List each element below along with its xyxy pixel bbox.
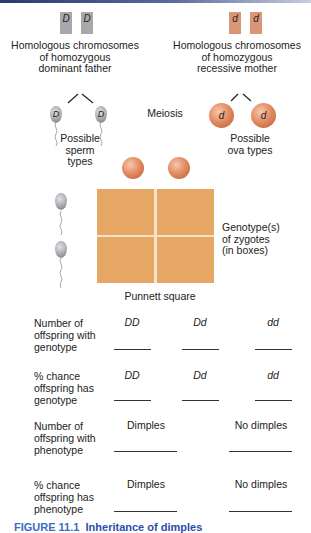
label-line: phenotype <box>34 444 96 456</box>
allele-label: d <box>219 110 225 121</box>
ovum-icon: d <box>209 103 234 128</box>
answer-blank-dimples-count[interactable] <box>114 451 177 452</box>
punnett-square <box>97 189 214 283</box>
punnett-cell <box>157 237 214 283</box>
label-line: phenotype <box>34 503 94 515</box>
genotype-percent-row-label: % chance offspring has genotype <box>34 370 94 406</box>
phenotype-column-dimples: Dimples <box>114 419 178 431</box>
label-line: genotype <box>34 341 96 353</box>
label-line: offspring has <box>34 382 94 394</box>
genotype-column-DD: DD <box>114 316 150 328</box>
answer-blank-dd-count[interactable] <box>255 349 292 350</box>
label-line: ova types <box>215 145 285 157</box>
genotype-column-DD: DD <box>114 369 150 381</box>
genotype-column-dd: dd <box>255 369 291 381</box>
figure-title: Inheritance of dimples <box>86 521 203 533</box>
answer-blank-dimples-percent[interactable] <box>114 511 177 512</box>
answer-blank-DD-percent[interactable] <box>114 400 151 401</box>
label-line: Possible <box>55 133 105 145</box>
allele-label: D <box>53 109 60 119</box>
label-line: Genotype(s) <box>222 222 280 234</box>
answer-blank-DD-count[interactable] <box>114 349 151 350</box>
genotype-column-Dd: Dd <box>182 369 218 381</box>
ova-types-label: Possible ova types <box>215 133 285 156</box>
punnett-square-title: Punnett square <box>115 291 205 303</box>
allele-label: D <box>98 109 105 119</box>
genotype-count-row-label: Number of offspring with genotype <box>34 317 96 353</box>
answer-blank-no-dimples-count[interactable] <box>229 451 292 452</box>
figure-caption: FIGURE 11.1 Inheritance of dimples <box>14 521 202 533</box>
answer-blank-dd-percent[interactable] <box>255 400 292 401</box>
label-line: offspring with <box>34 432 96 444</box>
phenotype-column-no-dimples: No dimples <box>229 419 293 431</box>
label-line: offspring has <box>34 491 94 503</box>
meiosis-label: Meiosis <box>140 108 190 120</box>
phenotype-column-no-dimples: No dimples <box>229 478 293 490</box>
phenotype-column-dimples: Dimples <box>114 478 178 490</box>
punnett-cell <box>97 237 154 283</box>
ovum-icon: d <box>251 103 276 128</box>
phenotype-count-row-label: Number of offspring with phenotype <box>34 420 96 456</box>
label-line: genotype <box>34 394 94 406</box>
label-line: Number of <box>34 317 96 329</box>
sperm-types-label: Possible sperm types <box>55 133 105 168</box>
answer-blank-no-dimples-percent[interactable] <box>229 511 292 512</box>
phenotype-percent-row-label: % chance offspring has phenotype <box>34 479 94 515</box>
label-line: types <box>55 156 105 168</box>
label-line: Number of <box>34 420 96 432</box>
ovum-icon <box>122 157 144 179</box>
label-line: (in boxes) <box>222 245 280 257</box>
label-line: % chance <box>34 370 94 382</box>
label-line: Possible <box>215 133 285 145</box>
ovum-icon <box>168 157 190 179</box>
punnett-cell <box>97 189 154 235</box>
answer-blank-Dd-percent[interactable] <box>182 400 219 401</box>
label-line: % chance <box>34 479 94 491</box>
genotype-column-dd: dd <box>255 316 291 328</box>
answer-blank-Dd-count[interactable] <box>182 349 219 350</box>
figure-number: FIGURE 11.1 <box>14 521 79 533</box>
genotype-column-Dd: Dd <box>182 316 218 328</box>
zygote-genotype-label: Genotype(s) of zygotes (in boxes) <box>222 222 280 257</box>
label-line: offspring with <box>34 329 96 341</box>
allele-label: d <box>261 110 267 121</box>
punnett-cell <box>157 189 214 235</box>
